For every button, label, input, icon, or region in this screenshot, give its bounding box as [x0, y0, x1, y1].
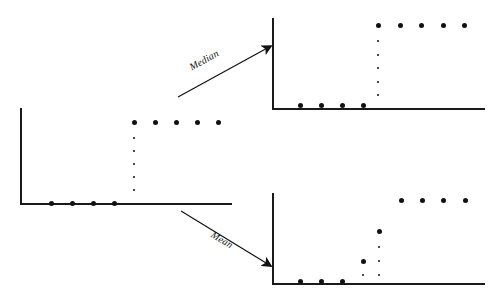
- x-axis: [272, 283, 485, 285]
- data-point: [420, 198, 425, 203]
- riser-dot: [378, 274, 380, 276]
- data-point: [441, 198, 446, 203]
- data-point: [399, 198, 404, 203]
- data-point: [340, 279, 345, 284]
- data-point: [298, 279, 303, 284]
- riser-dot: [378, 260, 380, 262]
- data-point: [361, 259, 366, 264]
- data-point: [377, 229, 382, 234]
- data-point: [463, 198, 468, 203]
- riser-dot: [378, 246, 380, 248]
- riser-dot: [362, 274, 364, 276]
- panel-mean-result: [0, 0, 498, 301]
- figure-canvas: Median Mean: [0, 0, 498, 301]
- data-point: [319, 279, 324, 284]
- y-axis: [272, 193, 274, 285]
